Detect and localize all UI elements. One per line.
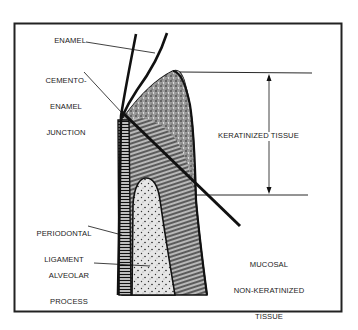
label-pdl-line1: PERIODONTAL [36, 230, 92, 239]
label-enamel: ENAMEL [42, 37, 86, 46]
enamel-leader [86, 42, 155, 53]
label-alveolar-line1: ALVEOLAR [44, 272, 94, 281]
arrow-up-icon [267, 74, 272, 81]
label-mucosal-non-keratinized-tissue: MUCOSAL NON-KERATINIZED TISSUE [226, 244, 312, 330]
label-cej-line2: ENAMEL [42, 103, 90, 112]
pdl-leader [88, 226, 122, 235]
label-keratinized-tissue: KERATINIZED TISSUE [217, 132, 300, 141]
label-cemento-enamel-junction: CEMENTO- ENAMEL JUNCTION [42, 60, 90, 146]
label-cej-line3: JUNCTION [42, 129, 90, 138]
arrow-down-icon [267, 187, 272, 194]
label-alveolar-process: ALVEOLAR PROCESS [44, 255, 94, 315]
label-mucosal-line3: TISSUE [226, 313, 312, 322]
label-alveolar-line2: PROCESS [44, 298, 94, 307]
label-mucosal-line2: NON-KERATINIZED [226, 287, 312, 296]
keratinized-top-line [180, 72, 312, 73]
label-mucosal-line1: MUCOSAL [226, 261, 312, 270]
label-cej-line1: CEMENTO- [42, 77, 90, 86]
